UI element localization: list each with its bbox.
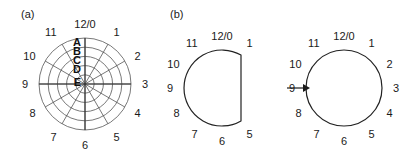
d-shape-hour-8: 8 (173, 107, 179, 119)
d-shape-hour-7: 7 (191, 128, 197, 140)
panel-a-polar-grid: ABCDE 12/01234567891011 (22, 18, 148, 151)
panel-b-transformation: 12/01567891011 12/01234567891011 (167, 30, 399, 147)
circle-contour (306, 50, 382, 126)
circle-hour-6: 6 (341, 135, 347, 147)
circle-hour-10: 10 (289, 58, 301, 70)
panel-a-hour-1: 1 (114, 26, 120, 38)
d-shape-contour (184, 50, 241, 126)
clock-hour-labels-d-shape: 12/01567891011 (167, 30, 253, 147)
d-shape-hour-11: 11 (186, 37, 197, 49)
panel-a-hour-8: 8 (29, 107, 35, 119)
circle-hour-9: 9 (289, 82, 295, 94)
panel-a-hour-12-0: 12/0 (74, 18, 95, 30)
circle-hour-2: 2 (386, 58, 392, 70)
figure-svg: ABCDE 12/01234567891011 12/01567891011 1… (0, 0, 407, 167)
circle-hour-12-0: 12/0 (333, 30, 354, 42)
circle-hour-4: 4 (386, 107, 392, 119)
d-shape-hour-9: 9 (167, 82, 173, 94)
panel-a-hour-6: 6 (82, 139, 88, 151)
d-shape-hour-6: 6 (219, 135, 225, 147)
d-shape-hour-10: 10 (167, 58, 179, 70)
circle-hour-1: 1 (369, 37, 375, 49)
polar-main-axes (39, 38, 131, 130)
panel-a-hour-7: 7 (50, 131, 56, 143)
panel-a-hour-10: 10 (23, 50, 35, 62)
panel-a-hour-9: 9 (22, 78, 28, 90)
panel-a-hour-11: 11 (45, 26, 56, 38)
circle-hour-8: 8 (295, 107, 301, 119)
d-shape-hour-5: 5 (247, 128, 253, 140)
circle-hour-7: 7 (313, 128, 319, 140)
ring-label-d: D (73, 63, 81, 75)
ring-letter-labels: ABCDE (73, 36, 81, 88)
panel-a-hour-3: 3 (142, 78, 148, 90)
panel-a-hour-4: 4 (134, 107, 140, 119)
d-shape-hour-12-0: 12/0 (211, 30, 232, 42)
circle-hour-3: 3 (393, 82, 399, 94)
panel-a-hour-2: 2 (134, 50, 140, 62)
panel-a-hour-5: 5 (114, 131, 120, 143)
ring-label-e: E (74, 76, 81, 88)
circle-hour-5: 5 (369, 128, 375, 140)
figure-canvas: (a) (b) ABCDE 12/01234567891011 12/01567… (0, 0, 407, 167)
d-shape-hour-1: 1 (247, 37, 253, 49)
circle-hour-11: 11 (308, 37, 319, 49)
